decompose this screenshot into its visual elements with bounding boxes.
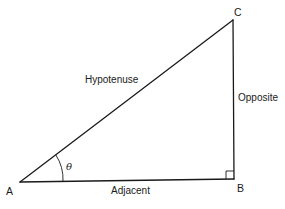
theta-angle-label: θ <box>66 162 72 172</box>
adjacent-line <box>20 179 234 182</box>
hypotenuse-line <box>20 20 233 182</box>
angle-arc <box>56 155 63 182</box>
hypotenuse-label: Hypotenuse <box>85 75 138 85</box>
right-angle-marker <box>226 171 234 179</box>
vertex-label-c: C <box>234 7 242 18</box>
vertex-label-a: A <box>6 186 13 197</box>
right-triangle-diagram <box>0 0 285 209</box>
adjacent-label: Adjacent <box>111 186 150 196</box>
opposite-line <box>233 20 234 179</box>
vertex-label-b: B <box>237 183 244 194</box>
opposite-label: Opposite <box>238 93 278 103</box>
